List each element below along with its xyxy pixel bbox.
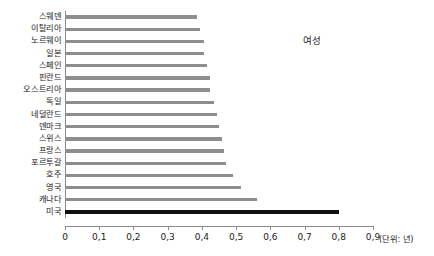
x-axis-tick bbox=[305, 226, 306, 230]
bar bbox=[65, 40, 204, 43]
bar bbox=[65, 162, 226, 165]
bar bbox=[65, 137, 222, 140]
category-label: 이탈리아 bbox=[0, 24, 62, 33]
category-label: 핀란드 bbox=[0, 73, 62, 82]
x-axis-tick-label: 0,9 bbox=[366, 232, 380, 242]
category-label: 스웨덴 bbox=[0, 12, 62, 21]
x-axis-tick-label: 0,2 bbox=[126, 232, 140, 242]
category-label: 네덜란드 bbox=[0, 110, 62, 119]
bar bbox=[65, 113, 217, 116]
x-axis-tick bbox=[65, 226, 66, 230]
category-axis-labels: 스웨덴이탈리아노르웨이일본스페인핀란드오스트리아독일네덜란드덴마크스위스프랑스포… bbox=[0, 11, 62, 218]
x-axis-tick-label: 0,7 bbox=[297, 232, 311, 242]
series-annotation-female: 여성 bbox=[303, 33, 321, 47]
bar bbox=[65, 174, 233, 177]
bar-highlight bbox=[65, 210, 339, 215]
bar bbox=[65, 186, 241, 189]
unit-note: (단위: 년) bbox=[379, 232, 413, 244]
category-label: 오스트리아 bbox=[0, 85, 62, 94]
x-axis-tick-label: 0,1 bbox=[92, 232, 106, 242]
category-label: 일본 bbox=[0, 49, 62, 58]
category-label: 영국 bbox=[0, 183, 62, 192]
x-axis-tick-label: 0,3 bbox=[160, 232, 174, 242]
bar bbox=[65, 76, 210, 79]
x-axis-tick bbox=[236, 226, 237, 230]
x-axis-tick bbox=[373, 226, 374, 230]
x-axis-tick bbox=[270, 226, 271, 230]
category-label: 덴마크 bbox=[0, 122, 62, 131]
category-label: 프랑스 bbox=[0, 146, 62, 155]
x-axis-tick-label: 0,6 bbox=[263, 232, 277, 242]
bar bbox=[65, 125, 219, 128]
x-axis-tick-label: 0,8 bbox=[332, 232, 346, 242]
bar bbox=[65, 101, 214, 104]
category-label: 미국 bbox=[0, 207, 62, 216]
bar-chart: 스웨덴이탈리아노르웨이일본스페인핀란드오스트리아독일네덜란드덴마크스위스프랑스포… bbox=[0, 0, 434, 256]
category-label: 포르투갈 bbox=[0, 158, 62, 167]
x-axis-tick-label: 0,4 bbox=[195, 232, 209, 242]
x-axis-tick bbox=[99, 226, 100, 230]
x-axis-line bbox=[65, 226, 373, 227]
x-axis-tick bbox=[202, 226, 203, 230]
x-axis-tick bbox=[133, 226, 134, 230]
x-axis-tick bbox=[339, 226, 340, 230]
category-label: 노르웨이 bbox=[0, 36, 62, 45]
bar bbox=[65, 15, 197, 18]
bar bbox=[65, 64, 207, 67]
bar bbox=[65, 52, 204, 55]
bar bbox=[65, 28, 200, 31]
x-axis-tick-label: 0,5 bbox=[229, 232, 243, 242]
x-axis-tick-label: 0 bbox=[62, 232, 68, 242]
plot-area bbox=[65, 11, 373, 218]
category-label: 스위스 bbox=[0, 134, 62, 143]
category-label: 독일 bbox=[0, 97, 62, 106]
category-label: 스페인 bbox=[0, 61, 62, 70]
bar bbox=[65, 198, 257, 201]
bar bbox=[65, 88, 210, 91]
category-label: 캐나다 bbox=[0, 195, 62, 204]
x-axis-tick bbox=[168, 226, 169, 230]
category-label: 호주 bbox=[0, 170, 62, 179]
bar bbox=[65, 149, 224, 152]
